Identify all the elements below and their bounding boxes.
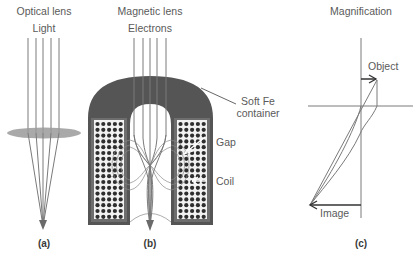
coil-winding-dot xyxy=(113,139,117,143)
coil-winding-dot xyxy=(190,128,194,132)
caption-b: (b) xyxy=(144,238,157,249)
coil-winding-dot xyxy=(107,186,111,190)
coil-winding-dot xyxy=(101,209,105,213)
coil-winding-dot xyxy=(190,192,194,196)
coil-winding-dot xyxy=(190,197,194,201)
coil-winding-dot xyxy=(196,197,200,201)
coil-winding-dot xyxy=(101,151,105,155)
coil-winding-dot xyxy=(178,186,182,190)
coil-winding-dot xyxy=(95,163,99,167)
soft-fe-label-line2: container xyxy=(236,107,280,119)
chief-ray xyxy=(310,80,377,205)
coil-winding-dot xyxy=(119,192,123,196)
object-label: Object xyxy=(368,60,398,72)
coil-winding-dot xyxy=(184,215,188,219)
coil-winding-dot xyxy=(101,192,105,196)
coil-winding-dot xyxy=(101,197,105,201)
coil-winding-dot xyxy=(95,174,99,178)
coil-winding-dot xyxy=(202,174,206,178)
coil-winding-dot xyxy=(107,128,111,132)
coil-winding-dot xyxy=(101,163,105,167)
coil-winding-dot xyxy=(202,128,206,132)
coil-winding-dot xyxy=(190,163,194,167)
coil-winding-dot xyxy=(196,209,200,213)
light-rays xyxy=(28,38,59,133)
coil-winding-dot xyxy=(202,197,206,201)
coil-winding-dot xyxy=(95,197,99,201)
coil-winding-dot xyxy=(184,168,188,172)
focus-arrow-icon xyxy=(39,220,47,230)
coil-winding-dot xyxy=(101,180,105,184)
coil-winding-dot xyxy=(184,122,188,126)
coil-winding-dot xyxy=(101,122,105,126)
coil-winding-dot xyxy=(190,215,194,219)
coil-winding-dot xyxy=(95,168,99,172)
coil-winding-dot xyxy=(202,122,206,126)
coil-winding-dot xyxy=(190,174,194,178)
coil-winding-dot xyxy=(113,215,117,219)
coil-winding-dot xyxy=(95,192,99,196)
optical-lens-title: Optical lens xyxy=(17,5,72,17)
coil-winding-dot xyxy=(113,134,117,138)
coil-winding-dot xyxy=(178,215,182,219)
coil-winding-dot xyxy=(190,168,194,172)
coil-winding-dot xyxy=(101,157,105,161)
coil-winding-dot xyxy=(196,122,200,126)
coil-winding-dot xyxy=(107,151,111,155)
coil-winding-dot xyxy=(196,168,200,172)
coil-winding-dot xyxy=(113,209,117,213)
coil-winding-dot xyxy=(95,186,99,190)
coil-winding-dot xyxy=(190,139,194,143)
coil-winding-dot xyxy=(107,192,111,196)
coil-winding-dot xyxy=(107,157,111,161)
coil-winding-dot xyxy=(184,186,188,190)
coil-winding-dot xyxy=(190,122,194,126)
coil-winding-dot xyxy=(101,203,105,207)
coil-winding-dot xyxy=(178,128,182,132)
coil-winding-dot xyxy=(202,163,206,167)
coil-winding-dot xyxy=(119,128,123,132)
coil-winding-dot xyxy=(190,209,194,213)
converging-ray xyxy=(43,133,51,226)
coil-winding-dot xyxy=(95,134,99,138)
coil-winding-dot xyxy=(119,203,123,207)
coil-winding-dot xyxy=(119,215,123,219)
panel-magnification: Magnification Object Image (c) xyxy=(308,5,413,249)
coil-winding-dot xyxy=(178,122,182,126)
coil-winding-dot xyxy=(202,192,206,196)
coil-winding-dot xyxy=(178,197,182,201)
converging-ray xyxy=(43,133,59,226)
caption-c: (c) xyxy=(355,238,367,249)
coil-winding-dot xyxy=(178,203,182,207)
coil-winding-dot xyxy=(107,203,111,207)
gap-label: Gap xyxy=(216,136,236,148)
coil-winding-dot xyxy=(202,145,206,149)
coil-winding-dot xyxy=(196,151,200,155)
coil-winding-dot xyxy=(178,192,182,196)
coil-winding-dot xyxy=(107,139,111,143)
coil-winding-dot xyxy=(119,209,123,213)
coil-winding-dot xyxy=(107,174,111,178)
image-label: Image xyxy=(320,207,349,219)
coil-winding-dot xyxy=(178,209,182,213)
optical-lens-icon xyxy=(7,128,81,139)
coil-winding-dot xyxy=(101,128,105,132)
coil-winding-dot xyxy=(196,192,200,196)
coil-winding-dot xyxy=(184,203,188,207)
coil-winding-dot xyxy=(196,215,200,219)
coil-winding-dot xyxy=(101,139,105,143)
coil-winding-dot xyxy=(196,134,200,138)
coil-winding-dot xyxy=(196,203,200,207)
coil-winding-dot xyxy=(202,203,206,207)
coil-winding-dot xyxy=(107,145,111,149)
coil-winding-dot xyxy=(101,145,105,149)
coil-winding-dot xyxy=(184,209,188,213)
coil-winding-dot xyxy=(107,163,111,167)
coil-winding-dot xyxy=(95,145,99,149)
coil-winding-dot xyxy=(202,209,206,213)
lens-diagram: Optical lens Light (a) Magnetic lens Ele… xyxy=(0,0,420,260)
coil-winding-dot xyxy=(113,192,117,196)
coil-winding-dot xyxy=(196,163,200,167)
soft-fe-label-line1: Soft Fe xyxy=(241,95,275,107)
electron-focus-arrow-icon xyxy=(146,220,154,231)
